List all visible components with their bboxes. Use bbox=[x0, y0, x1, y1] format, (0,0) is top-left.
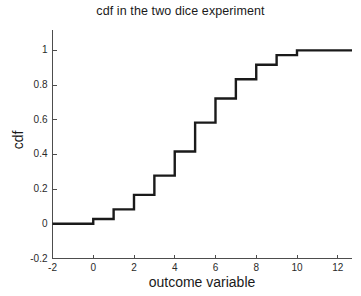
cdf-step-line bbox=[53, 50, 353, 223]
axis-group bbox=[53, 30, 353, 259]
x-tick-label: 10 bbox=[282, 262, 312, 273]
x-tick-label: 2 bbox=[119, 262, 149, 273]
tick-marks bbox=[53, 50, 338, 258]
y-tick-label: 0.4 bbox=[0, 148, 48, 159]
x-tick-label: 12 bbox=[323, 262, 353, 273]
x-tick-label: 0 bbox=[78, 262, 108, 273]
cdf-series bbox=[53, 50, 353, 223]
cdf-step-plot bbox=[0, 0, 361, 296]
x-tick-label: 8 bbox=[241, 262, 271, 273]
x-tick-label: -2 bbox=[38, 262, 68, 273]
x-tick-label: 6 bbox=[200, 262, 230, 273]
x-tick-label: 4 bbox=[160, 262, 190, 273]
y-tick-label: 1 bbox=[0, 44, 48, 55]
y-tick-label: 0.8 bbox=[0, 79, 48, 90]
y-tick-label: 0.2 bbox=[0, 183, 48, 194]
y-tick-label: 0 bbox=[0, 218, 48, 229]
y-tick-label: 0.6 bbox=[0, 114, 48, 125]
figure-canvas: cdf in the two dice experiment cdf outco… bbox=[0, 0, 361, 296]
